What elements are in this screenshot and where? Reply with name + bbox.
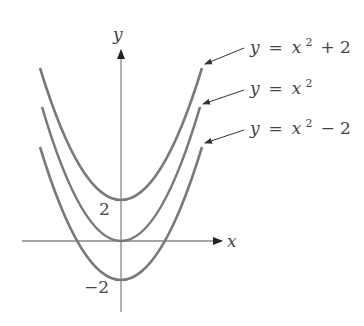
graph: y x 2 −2 y = x 2 + 2 y = x 2 y = x 2 − 2: [0, 0, 364, 326]
pointer-arrow-2: [203, 90, 244, 104]
tick-label-neg-2: −2: [84, 277, 109, 297]
pointer-arrow-1: [205, 48, 244, 64]
tick-label-2: 2: [99, 199, 110, 219]
equation-label-3: y = x 2 − 2: [249, 113, 351, 138]
x-axis-label: x: [227, 231, 237, 251]
equation-label-2: y = x 2: [249, 77, 312, 98]
pointer-arrow-3: [205, 130, 244, 143]
equation-label-1: y = x 2 + 2: [249, 32, 351, 57]
y-axis-label: y: [112, 24, 123, 44]
